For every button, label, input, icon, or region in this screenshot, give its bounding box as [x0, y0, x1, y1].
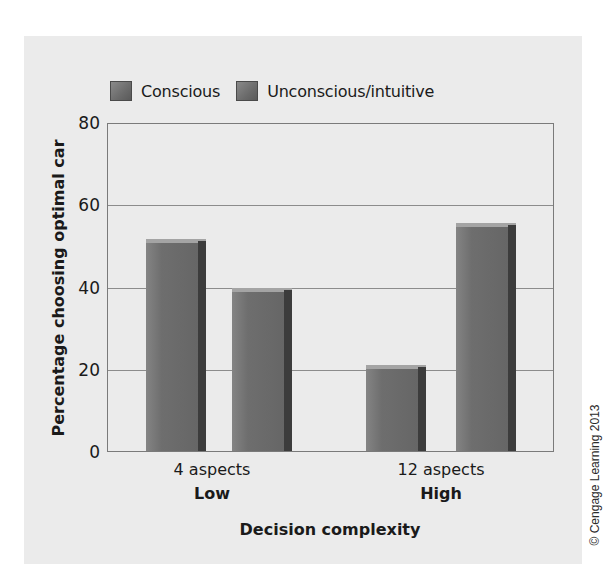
legend-label: Conscious	[141, 82, 220, 101]
x-group-low: Low	[194, 484, 230, 503]
copyright-credit: © Cengage Learning 2013	[588, 405, 602, 546]
y-axis-label: Percentage choosing optimal car	[49, 139, 68, 436]
y-tick-60: 60	[68, 195, 100, 215]
y-tick-0: 0	[68, 442, 100, 462]
y-tick-20: 20	[68, 360, 100, 380]
x-tick-12-aspects: 12 aspects	[398, 460, 485, 479]
legend: Conscious Unconscious/intuitive	[110, 76, 450, 106]
legend-item-conscious: Conscious	[110, 81, 220, 101]
legend-label: Unconscious/intuitive	[267, 82, 434, 101]
x-group-high: High	[420, 484, 462, 503]
legend-swatch-conscious	[110, 81, 132, 101]
gridline-60	[108, 205, 553, 206]
y-tick-80: 80	[68, 113, 100, 133]
x-tick-4-aspects: 4 aspects	[174, 460, 251, 479]
legend-item-unconscious: Unconscious/intuitive	[236, 81, 434, 101]
x-axis-label: Decision complexity	[240, 520, 421, 539]
y-tick-40: 40	[68, 278, 100, 298]
plot-area	[107, 123, 554, 452]
legend-swatch-unconscious	[236, 81, 258, 101]
